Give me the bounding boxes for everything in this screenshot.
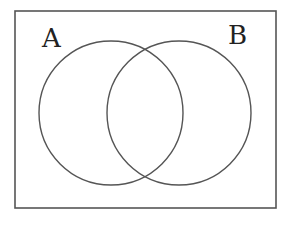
set-b-circle: [107, 41, 251, 185]
set-a-label: A: [41, 23, 62, 53]
set-b-label: B: [228, 20, 247, 50]
venn-diagram: A B: [0, 0, 285, 229]
set-a-circle: [39, 41, 183, 185]
